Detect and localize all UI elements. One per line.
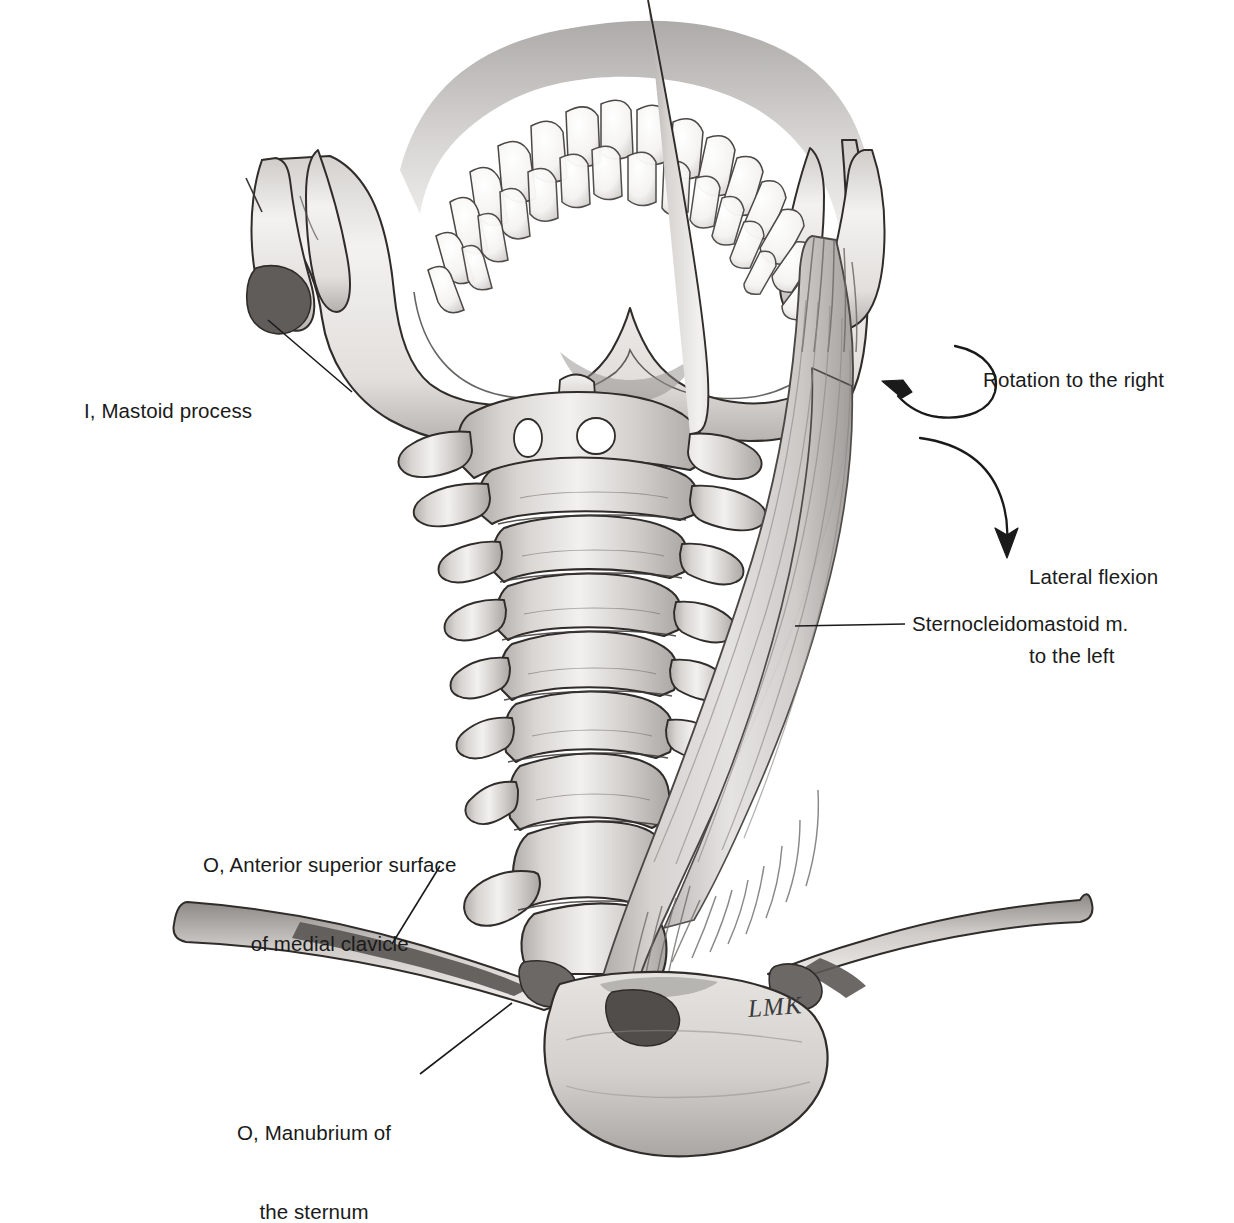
label-sternocleidomastoid: Sternocleidomastoid m. xyxy=(912,611,1128,637)
vertebra-c7 xyxy=(508,754,669,831)
vertebra-c6 xyxy=(504,692,673,763)
tooth xyxy=(560,154,590,207)
label-clavicle-line2: of medial clavicle xyxy=(203,931,456,957)
transverse-process-t1-left xyxy=(464,871,540,926)
foramen-c1-left xyxy=(514,419,542,457)
artist-signature: LMK xyxy=(747,991,803,1023)
leader-line-manubrium xyxy=(420,1003,512,1074)
transverse-process-c2-right xyxy=(690,486,766,531)
label-rotation-to-the-right: Rotation to the right xyxy=(983,367,1164,393)
dental-arch xyxy=(428,100,822,320)
label-lateral-flexion: Lateral flexion to the left xyxy=(1029,512,1158,696)
label-lateral-flexion-line1: Lateral flexion xyxy=(1029,564,1158,590)
transverse-process-c5-left xyxy=(451,658,511,699)
tooth xyxy=(628,152,656,205)
transverse-process-c2-left xyxy=(414,484,490,527)
transverse-process-c4-left xyxy=(445,600,507,641)
transverse-process-c1-left xyxy=(398,432,472,478)
label-clavicle-origin: O, Anterior superior surface of medial c… xyxy=(203,800,456,984)
vertebra-c2 xyxy=(479,458,699,525)
rotation-arrow-curve xyxy=(898,346,996,418)
transverse-process-c3-left xyxy=(439,542,503,583)
label-mastoid-process: I, Mastoid process xyxy=(84,398,252,424)
vertebra-c5 xyxy=(500,632,677,701)
rotation-arrow-head xyxy=(882,380,912,398)
tooth xyxy=(528,168,558,221)
lateral-flexion-arrow-curve xyxy=(920,438,1007,541)
vertebra-c3 xyxy=(492,516,687,583)
label-clavicle-line1: O, Anterior superior surface xyxy=(203,852,456,878)
label-lateral-flexion-line2: to the left xyxy=(1029,643,1158,669)
foramen-c1-right xyxy=(577,418,615,454)
transverse-process-c3-right xyxy=(680,544,744,585)
label-manubrium-line1: O, Manubrium of xyxy=(237,1120,391,1146)
vertebra-c4 xyxy=(496,574,681,641)
label-manubrium-line2: the sternum xyxy=(237,1199,391,1223)
label-manubrium-origin: O, Manubrium of the sternum xyxy=(237,1068,391,1223)
tooth xyxy=(592,146,622,199)
